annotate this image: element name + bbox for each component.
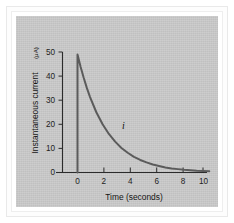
y-axis-tick-labels: 0 10 20 30 40 50 (46, 48, 56, 178)
figure-outer-frame: 0 10 20 30 40 50 (6, 6, 228, 217)
figure-root: 0 10 20 30 40 50 (0, 0, 234, 223)
x-tick-label-10: 10 (199, 177, 209, 186)
y-axis-title: Instantaneous current (30, 72, 40, 154)
y-axis-units: (μA) (32, 47, 39, 59)
figure-inner-frame: 0 10 20 30 40 50 (11, 11, 223, 212)
y-tick-label-0: 0 (50, 168, 55, 177)
y-tick-label-50: 50 (46, 48, 56, 57)
x-tick-label-0: 0 (75, 177, 80, 186)
decay-curve-chart: 0 10 20 30 40 50 (16, 16, 218, 207)
current-decay-curve (78, 54, 210, 172)
x-tick-label-8: 8 (181, 177, 186, 186)
x-tick-label-6: 6 (154, 177, 159, 186)
y-tick-label-10: 10 (46, 144, 56, 153)
x-axis-title: Time (seconds) (105, 192, 163, 202)
plot-panel: 0 10 20 30 40 50 (16, 16, 218, 207)
y-tick-label-20: 20 (46, 120, 56, 129)
y-axis-ticks (59, 52, 63, 173)
x-axis-tick-labels: 0 2 4 6 8 10 (75, 177, 208, 186)
x-tick-label-4: 4 (128, 177, 133, 186)
y-tick-label-40: 40 (46, 72, 56, 81)
x-tick-label-2: 2 (102, 177, 107, 186)
y-tick-label-30: 30 (46, 96, 56, 105)
curve-label-i: i (122, 120, 125, 131)
y-axis-title-group: Instantaneous current (μA) (30, 47, 40, 153)
